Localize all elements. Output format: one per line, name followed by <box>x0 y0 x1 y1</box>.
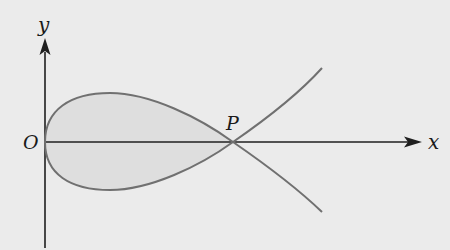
y-axis-label: y <box>38 15 49 35</box>
diagram-svg <box>0 0 450 250</box>
origin-label: O <box>23 133 39 152</box>
curve-branch-upper <box>233 68 322 142</box>
curve-branch-lower <box>233 142 322 212</box>
point-p-label: P <box>226 114 239 133</box>
x-axis-label: x <box>428 132 439 152</box>
diagram-canvas: y x O P <box>0 0 450 250</box>
